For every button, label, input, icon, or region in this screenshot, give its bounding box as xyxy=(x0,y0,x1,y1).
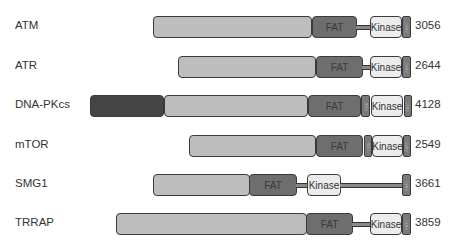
kinase-domain: Kinase xyxy=(371,95,403,117)
n-terminal-domain xyxy=(189,135,316,157)
fatc-domain: FATC xyxy=(403,135,411,157)
fat-domain: FAT xyxy=(306,213,353,235)
fat-domain: FAT xyxy=(312,16,357,38)
fatc-domain: FATC xyxy=(402,174,411,196)
protein-row-atr: ATR FAT Kinase FATC 2644 xyxy=(0,55,454,81)
protein-name: SMG1 xyxy=(15,177,48,189)
protein-name: mTOR xyxy=(15,138,49,150)
fat-domain: FAT xyxy=(316,56,363,78)
linker xyxy=(356,25,371,30)
kinase-domain: Kinase xyxy=(307,174,341,196)
protein-row-smg1: SMG1 FAT Kinase FATC 3661 xyxy=(0,173,454,199)
protein-name: ATR xyxy=(15,59,37,71)
protein-row-mtor: mTOR FAT FRB Kinase FATC 2549 xyxy=(0,134,454,160)
protein-row-trrap: TRRAP FAT Kinase FATC 3859 xyxy=(0,212,454,238)
n-terminal-domain xyxy=(116,213,307,235)
protein-length: 3661 xyxy=(415,177,441,189)
kinase-domain: Kinase xyxy=(370,56,402,78)
n-terminal-domain xyxy=(164,95,308,117)
fat-domain: FAT xyxy=(249,174,297,196)
protein-row-atm: ATM FAT Kinase FATC 3056 xyxy=(0,15,454,41)
kinase-domain: Kinase xyxy=(370,213,402,235)
kinase-domain: Kinase xyxy=(372,135,403,157)
protein-length: 2644 xyxy=(415,59,441,71)
protein-name: DNA-PKcs xyxy=(15,98,70,110)
frb-domain: FRB xyxy=(364,135,372,157)
n-terminal-domain xyxy=(153,174,250,196)
frb-domain: FRB xyxy=(361,95,370,117)
fatc-domain: FATC xyxy=(404,95,412,117)
protein-row-dna-pkcs: DNA-PKcs FAT FRB Kinase FATC 4128 xyxy=(0,94,454,120)
protein-length: 3859 xyxy=(415,216,441,228)
n-terminal-domain xyxy=(178,56,316,78)
kinase-domain: Kinase xyxy=(370,16,402,38)
protein-length: 4128 xyxy=(415,98,441,110)
fat-domain: FAT xyxy=(308,95,361,117)
fat-domain: FAT xyxy=(316,135,363,157)
linker xyxy=(352,222,371,227)
protein-name: TRRAP xyxy=(15,216,54,228)
protein-length: 3056 xyxy=(415,19,441,31)
linker xyxy=(340,183,403,188)
fatc-domain: FATC xyxy=(402,16,411,38)
n-terminal-domain xyxy=(153,16,312,38)
dna-pkcs-n-terminal-domain xyxy=(90,95,164,117)
protein-length: 2549 xyxy=(415,138,441,150)
protein-name: ATM xyxy=(15,19,38,31)
fatc-domain: FATC xyxy=(402,213,411,235)
fatc-domain: FATC xyxy=(402,56,411,78)
